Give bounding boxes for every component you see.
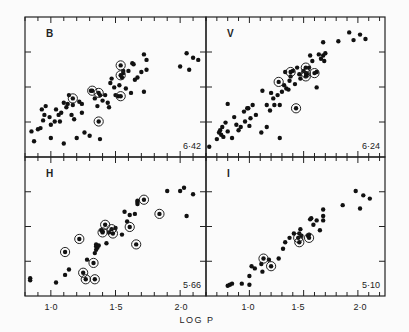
data-point (98, 137, 102, 141)
circled-point (142, 198, 146, 202)
data-point (358, 206, 362, 210)
data-point (242, 109, 246, 113)
data-point (67, 267, 71, 271)
data-point (260, 89, 264, 93)
data-point (232, 115, 236, 119)
data-point (287, 236, 291, 240)
data-point (347, 30, 351, 34)
data-point (100, 98, 104, 102)
data-point (54, 280, 58, 284)
circled-point (276, 80, 280, 84)
data-point (62, 101, 66, 105)
data-point (87, 134, 91, 138)
data-point (43, 104, 47, 108)
circled-point (96, 119, 100, 123)
circled-point (96, 91, 100, 95)
circled-point (118, 94, 122, 98)
data-point (184, 214, 188, 218)
band-label: B (46, 28, 53, 39)
data-point (309, 216, 313, 220)
circled-point (134, 242, 138, 246)
x-tick-left-2-0: 2·0 (174, 302, 187, 312)
data-point (259, 130, 263, 134)
data-point (59, 111, 63, 115)
data-point (308, 53, 312, 57)
data-point (107, 105, 111, 109)
data-point (340, 203, 344, 207)
data-point (128, 213, 132, 217)
data-point (41, 118, 45, 122)
circled-point (128, 225, 132, 229)
data-point (124, 86, 128, 90)
slope-label: 6·24 (362, 141, 380, 151)
data-point (323, 51, 327, 55)
data-point (230, 281, 234, 285)
data-point (178, 189, 182, 193)
data-point (49, 136, 53, 140)
data-point (278, 136, 282, 140)
data-point (142, 90, 146, 94)
data-point (42, 113, 46, 117)
data-point (58, 119, 62, 123)
circled-point (103, 223, 107, 227)
data-point (82, 130, 86, 134)
data-point (275, 93, 279, 97)
circled-point (297, 240, 301, 244)
circled-point (63, 250, 67, 254)
data-point (63, 273, 67, 277)
circled-point (312, 71, 316, 75)
panel-h: H5·66 (25, 157, 206, 296)
data-point (94, 248, 98, 252)
data-point (106, 101, 110, 105)
data-point (265, 103, 269, 107)
data-point (215, 137, 219, 141)
x-tick-right-1-0: 1·0 (241, 302, 254, 312)
data-point (311, 223, 315, 227)
data-point (368, 196, 372, 200)
data-point (135, 75, 139, 79)
data-point (29, 129, 33, 133)
circled-point (93, 277, 97, 281)
data-point (358, 32, 362, 36)
circled-point (269, 264, 273, 268)
slope-label: 5·66 (183, 280, 201, 290)
data-point (32, 139, 36, 143)
data-point (28, 278, 32, 282)
data-points (225, 189, 372, 288)
data-point (129, 91, 133, 95)
circled-point (288, 70, 292, 74)
data-point (363, 37, 367, 41)
data-point (321, 214, 325, 218)
band-label: V (227, 28, 234, 39)
circled-point (111, 231, 115, 235)
data-point (286, 87, 290, 91)
x-axis-label: LOG P (179, 315, 214, 325)
data-point (295, 65, 299, 69)
data-point (239, 125, 243, 129)
panel-b: B6·42 (25, 17, 206, 157)
data-point (221, 135, 225, 139)
data-point (223, 120, 227, 124)
data-point (126, 69, 130, 73)
data-point (187, 68, 191, 72)
data-points (28, 186, 195, 285)
data-points (207, 30, 368, 149)
circled-point (304, 65, 308, 69)
data-point (117, 83, 121, 87)
circled-point (307, 236, 311, 240)
data-point (191, 192, 195, 196)
data-point (287, 79, 291, 83)
data-point (144, 58, 148, 62)
x-tick-right-2-0: 2·0 (353, 302, 366, 312)
data-point (281, 247, 285, 251)
data-point (182, 186, 186, 190)
data-point (268, 108, 272, 112)
data-point (69, 113, 73, 117)
data-point (247, 283, 251, 287)
data-point (269, 91, 273, 95)
data-point (254, 113, 258, 117)
data-point (80, 111, 84, 115)
data-point (72, 117, 76, 121)
data-point (321, 40, 325, 44)
data-point (112, 85, 116, 89)
